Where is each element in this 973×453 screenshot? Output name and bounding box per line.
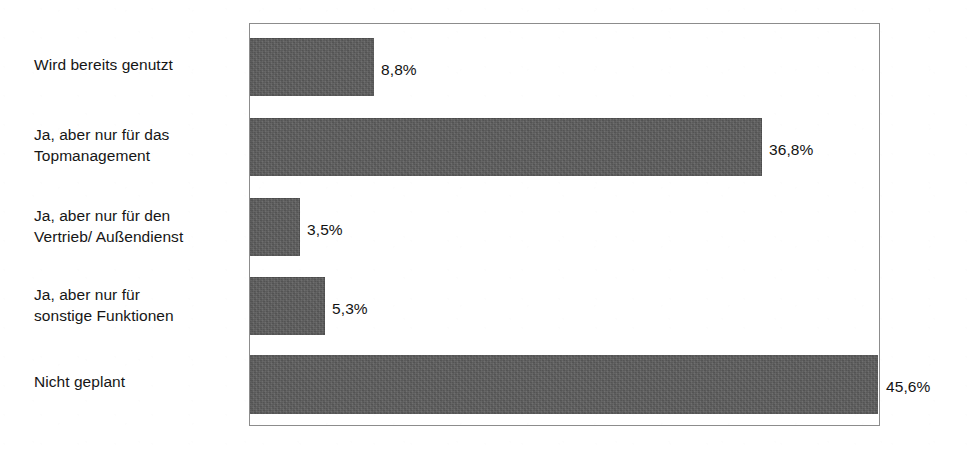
category-label-topmanagement: Ja, aber nur für das Topmanagement [34, 124, 246, 166]
bar-sonstige-funktionen [250, 277, 325, 335]
value-label-sonstige-funktionen: 5,3% [332, 300, 368, 318]
value-label-nicht-geplant: 45,6% [886, 378, 930, 396]
plot-area [249, 23, 880, 426]
bar-wird-bereits-genutzt [250, 38, 374, 96]
value-label-topmanagement: 36,8% [769, 141, 813, 159]
horizontal-bar-chart: Wird bereits genutzt Ja, aber nur für da… [0, 0, 973, 453]
category-label-nicht-geplant: Nicht geplant [34, 371, 246, 392]
category-label-wird-bereits-genutzt: Wird bereits genutzt [34, 54, 246, 75]
bar-vertrieb-aussendienst [250, 198, 300, 256]
bar-nicht-geplant [250, 355, 878, 414]
value-label-wird-bereits-genutzt: 8,8% [381, 61, 417, 79]
category-label-sonstige-funktionen: Ja, aber nur für sonstige Funktionen [34, 284, 246, 326]
category-label-vertrieb-aussendienst: Ja, aber nur für den Vertrieb/ Außendien… [34, 205, 246, 247]
value-label-vertrieb-aussendienst: 3,5% [307, 221, 343, 239]
bar-topmanagement [250, 118, 762, 176]
